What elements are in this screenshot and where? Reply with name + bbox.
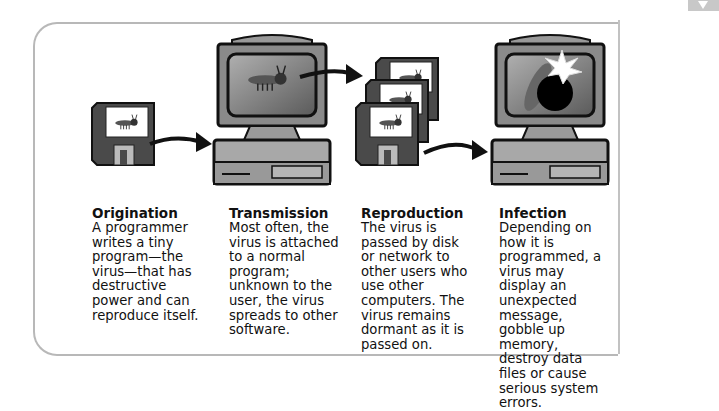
stage-title: Origination [92, 206, 207, 221]
stage-title: Transmission [229, 206, 344, 221]
stage-infection: Infection Depending on how it is program… [499, 206, 609, 411]
reproduction-floppy-disks-icon [356, 58, 438, 165]
stage-description: The virus is passed by disk or network t… [361, 221, 471, 352]
stage-title: Infection [499, 206, 609, 221]
stage-description: Most often, the virus is attached to a n… [229, 221, 344, 338]
origination-floppy-disk-icon [92, 103, 154, 165]
stage-description: Depending on how it is programmed, a vir… [499, 221, 609, 411]
stage-title: Reproduction [361, 206, 471, 221]
transmission-computer-icon [214, 35, 330, 184]
stage-description: A programmer writes a tiny program—the v… [92, 221, 207, 323]
stage-origination: Origination A programmer writes a tiny p… [92, 206, 207, 323]
infection-computer-bomb-icon [492, 35, 608, 184]
stage-transmission: Transmission Most often, the virus is at… [229, 206, 344, 338]
stage-reproduction: Reproduction The virus is passed by disk… [361, 206, 471, 352]
